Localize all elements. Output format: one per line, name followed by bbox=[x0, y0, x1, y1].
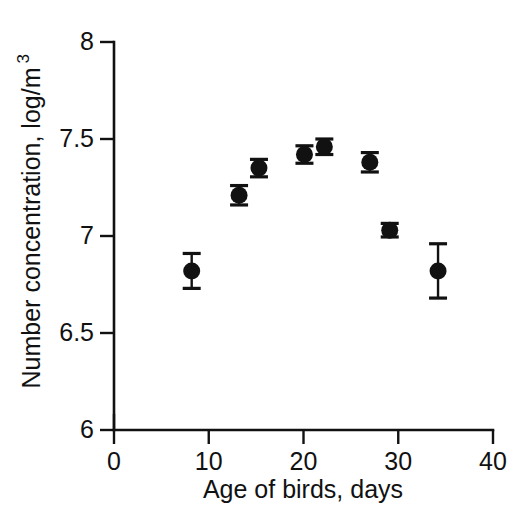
data-point-marker bbox=[183, 262, 200, 279]
data-point-marker bbox=[296, 146, 313, 163]
data-point bbox=[230, 186, 248, 205]
data-point bbox=[315, 138, 333, 155]
x-tick-label: 0 bbox=[107, 447, 121, 475]
scatter-plot: 66.577.58 010203040 Age of birds, days N… bbox=[0, 0, 528, 522]
x-tick-group: 010203040 bbox=[107, 414, 507, 475]
data-point bbox=[381, 222, 399, 239]
x-tick-label: 20 bbox=[290, 447, 318, 475]
chart-figure: 66.577.58 010203040 Age of birds, days N… bbox=[0, 0, 528, 522]
data-point-marker bbox=[250, 160, 267, 177]
x-axis-title: Age of birds, days bbox=[203, 475, 403, 503]
y-tick-group: 66.577.58 bbox=[59, 27, 114, 443]
y-axis-title-superscript: 3 bbox=[14, 54, 33, 63]
y-tick-label: 6.5 bbox=[59, 318, 94, 346]
data-point-marker bbox=[430, 262, 447, 279]
data-point-marker bbox=[361, 154, 378, 171]
y-axis-title-group: Number concentration, log/m 3 bbox=[14, 54, 45, 388]
x-tick-label: 10 bbox=[195, 447, 223, 475]
data-point-marker bbox=[381, 222, 398, 239]
data-point bbox=[429, 244, 447, 298]
data-point-group bbox=[183, 138, 447, 298]
data-point-marker bbox=[316, 138, 333, 155]
data-point-marker bbox=[231, 187, 248, 204]
x-tick-label: 30 bbox=[384, 447, 412, 475]
x-tick-label: 40 bbox=[479, 447, 507, 475]
data-point bbox=[250, 159, 268, 176]
y-tick-label: 6 bbox=[80, 415, 94, 443]
data-point bbox=[361, 153, 379, 172]
y-tick-label: 8 bbox=[80, 27, 94, 55]
y-tick-label: 7 bbox=[80, 221, 94, 249]
data-point bbox=[183, 253, 201, 288]
data-point bbox=[295, 146, 313, 163]
y-axis-title: Number concentration, log/m bbox=[17, 68, 45, 389]
y-tick-label: 7.5 bbox=[59, 124, 94, 152]
